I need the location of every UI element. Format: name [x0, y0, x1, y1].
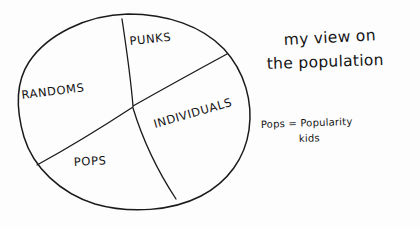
pie-chart-sketch: PUNKS INDIVIDUALS POPS RANDOMS my view o… [0, 0, 420, 227]
legend-note-line2: kids [299, 132, 320, 144]
sketch-page: PUNKS INDIVIDUALS POPS RANDOMS my view o… [0, 0, 420, 227]
chart-title-line2: the population [267, 51, 385, 73]
pie-label-pops: POPS [73, 153, 106, 169]
chart-title-line1: my view on [283, 26, 376, 49]
legend-note-line1: Pops = Popularity [261, 116, 353, 130]
